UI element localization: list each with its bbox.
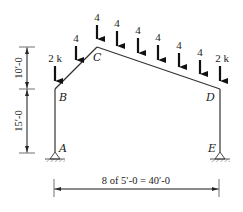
node-label-C: C	[93, 51, 102, 64]
node-label-D: D	[205, 91, 215, 104]
dimension-upper-label: 10′-0	[13, 57, 24, 79]
load-label-7: 4	[197, 46, 203, 58]
node-label-B: B	[58, 91, 67, 104]
load-label-6: 4	[176, 39, 182, 51]
load-label-5: 4	[155, 31, 161, 43]
node-label-A: A	[58, 142, 67, 155]
load-label-1: 4	[73, 32, 79, 44]
load-label-D: 2 k	[215, 52, 229, 64]
dimension-horizontal-label: 8 of 5′-0 = 40′-0	[102, 175, 170, 186]
load-label-C: 4	[94, 11, 100, 23]
gable-frame-diagram: A B C D E 2 k 4 4 4 4 4 4 4 2 k 10′-0 15…	[0, 0, 243, 212]
load-label-B: 2 k	[48, 52, 62, 64]
load-label-3: 4	[114, 17, 120, 29]
frame	[55, 47, 220, 152]
node-label-E: E	[207, 142, 216, 155]
dimension-lower-label: 15′-0	[13, 110, 24, 132]
load-label-4: 4	[135, 24, 141, 36]
